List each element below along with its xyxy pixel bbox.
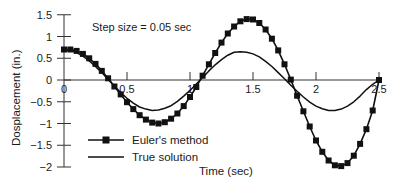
legend-euler-label: Euler's method: [132, 134, 208, 146]
data-point-marker: [237, 18, 243, 24]
data-point-marker: [162, 119, 168, 125]
data-point-marker: [376, 77, 382, 83]
y-tick-label: −2: [39, 161, 52, 173]
data-point-marker: [124, 99, 130, 105]
data-point-marker: [244, 16, 250, 22]
data-point-marker: [294, 93, 300, 99]
legend-item-true: True solution: [88, 151, 198, 163]
x-tick-label: 2: [313, 83, 319, 95]
data-point-marker: [86, 55, 92, 61]
data-point-marker: [212, 50, 218, 56]
data-point-marker: [168, 116, 174, 122]
data-point-marker: [345, 160, 351, 166]
data-point-marker: [118, 91, 124, 97]
y-axis-title: Dosplacement (in.): [10, 49, 22, 146]
data-point-marker: [105, 75, 111, 81]
data-point-marker: [143, 117, 149, 123]
legend-euler-marker-icon: [103, 137, 110, 144]
data-point-marker: [357, 141, 363, 147]
data-point-marker: [288, 77, 294, 83]
step-size-annotation: Step size = 0.05 sec: [92, 21, 192, 33]
data-point-marker: [149, 120, 155, 126]
y-tick-label: −1: [39, 118, 52, 130]
x-tick-label: 0: [61, 83, 67, 95]
data-point-marker: [326, 158, 332, 164]
y-tick-label: 1: [46, 31, 52, 43]
data-point-marker: [263, 27, 269, 33]
data-point-marker: [137, 112, 143, 118]
data-point-marker: [370, 108, 376, 114]
axes: [57, 15, 379, 167]
data-point-marker: [67, 47, 73, 53]
data-point-marker: [174, 111, 180, 117]
displacement-chart: 1.510.50−0.5−1−1.5−2 00.511.522.5 Step s…: [0, 0, 397, 187]
euler-method-line: [61, 16, 382, 169]
data-point-marker: [219, 40, 225, 46]
y-tick-label: 0: [46, 74, 52, 86]
x-tick-label: 2.5: [371, 83, 386, 95]
legend-item-euler: Euler's method: [88, 134, 208, 146]
data-point-marker: [74, 48, 80, 54]
data-point-marker: [181, 103, 187, 109]
y-tick-labels: 1.510.50−0.5−1−1.5−2: [30, 9, 52, 173]
data-point-marker: [61, 47, 67, 53]
data-point-marker: [99, 68, 105, 74]
data-point-marker: [332, 162, 338, 168]
data-point-marker: [187, 94, 193, 100]
data-point-marker: [193, 84, 199, 90]
data-point-marker: [256, 20, 262, 26]
data-point-marker: [313, 138, 319, 144]
y-tick-label: −1.5: [30, 139, 52, 151]
data-point-marker: [93, 61, 99, 67]
x-tick-label: 1.5: [245, 83, 260, 95]
data-point-marker: [282, 61, 288, 67]
data-point-marker: [225, 31, 231, 37]
data-point-marker: [80, 51, 86, 57]
data-point-marker: [300, 108, 306, 114]
data-point-marker: [130, 106, 136, 112]
data-point-marker: [200, 73, 206, 79]
data-point-marker: [275, 47, 281, 53]
data-point-marker: [231, 24, 237, 30]
data-point-marker: [338, 163, 344, 169]
y-tick-label: 0.5: [37, 52, 52, 64]
data-point-marker: [351, 153, 357, 159]
data-point-marker: [319, 149, 325, 155]
legend-true-label: True solution: [132, 151, 198, 163]
legend: Euler's method True solution: [88, 134, 208, 163]
data-point-marker: [269, 36, 275, 42]
data-point-marker: [307, 124, 313, 130]
data-point-marker: [250, 17, 256, 23]
data-point-marker: [363, 126, 369, 132]
y-tick-label: 1.5: [37, 9, 52, 21]
data-point-marker: [156, 121, 162, 127]
x-axis-title: Time (sec): [199, 165, 253, 177]
y-tick-label: −0.5: [30, 96, 52, 108]
data-point-marker: [111, 84, 117, 90]
x-tick-labels: 00.511.522.5: [61, 83, 387, 95]
data-point-marker: [206, 61, 212, 67]
